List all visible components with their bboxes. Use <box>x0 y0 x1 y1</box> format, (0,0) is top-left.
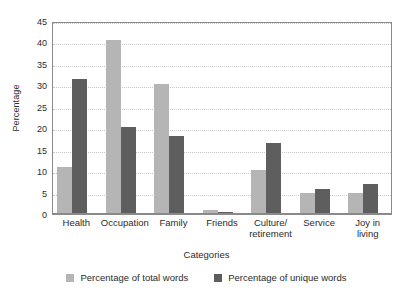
bar-group <box>247 23 296 214</box>
bar <box>363 184 378 214</box>
bar-group <box>150 23 199 214</box>
bar <box>169 136 184 214</box>
x-tick-label: Culture/ retirement <box>246 217 295 239</box>
legend-item[interactable]: Percentage of total words <box>66 272 188 283</box>
bar <box>300 193 315 214</box>
y-tick-label: 30 <box>37 82 47 91</box>
x-axis-title: Categories <box>0 249 413 260</box>
legend-swatch-icon <box>214 274 222 282</box>
bar-group <box>53 23 102 214</box>
y-tick-label: 35 <box>37 60 47 69</box>
bar <box>57 167 72 214</box>
bar <box>348 193 363 214</box>
legend-label: Percentage of unique words <box>228 272 346 283</box>
y-axis-title-text: Percentage <box>11 84 21 131</box>
legend: Percentage of total wordsPercentage of u… <box>0 272 413 283</box>
x-tick-label: Friends <box>198 217 247 228</box>
bar-group <box>296 23 345 214</box>
bar-group <box>102 23 151 214</box>
legend-swatch-icon <box>66 274 74 282</box>
bar <box>251 170 266 214</box>
x-tick-label: Family <box>149 217 198 228</box>
bar-group <box>199 23 248 214</box>
x-tick-label: Occupation <box>101 217 150 228</box>
x-tick-label: Joy in living <box>343 217 392 239</box>
x-tick-label: Health <box>52 217 101 228</box>
bar <box>72 79 87 214</box>
bar <box>315 189 330 214</box>
bars-layer <box>53 23 391 214</box>
bar-group <box>344 23 393 214</box>
y-tick-label: 45 <box>37 18 47 27</box>
y-tick-label: 5 <box>42 189 47 198</box>
x-axis-title-text: Categories <box>184 249 230 260</box>
y-tick-label: 20 <box>37 125 47 134</box>
bar <box>266 143 281 214</box>
y-tick-label: 40 <box>37 39 47 48</box>
bar <box>106 40 121 214</box>
bar <box>154 84 169 214</box>
x-axis-tick-labels: HealthOccupationFamilyFriendsCulture/ re… <box>52 217 392 247</box>
y-tick-label: 15 <box>37 146 47 155</box>
y-tick-label: 25 <box>37 103 47 112</box>
legend-label: Percentage of total words <box>80 272 188 283</box>
bar <box>121 127 136 214</box>
plot-area <box>52 22 392 215</box>
y-axis-tick-labels: 051015202530354045 <box>24 22 50 215</box>
x-tick-label: Service <box>295 217 344 228</box>
y-tick-label: 0 <box>42 211 47 220</box>
y-tick-label: 10 <box>37 168 47 177</box>
legend-item[interactable]: Percentage of unique words <box>214 272 346 283</box>
y-axis-title: Percentage <box>8 0 24 215</box>
x-axis-baseline <box>53 213 391 214</box>
bar-chart: Percentage 051015202530354045 HealthOccu… <box>0 0 413 299</box>
